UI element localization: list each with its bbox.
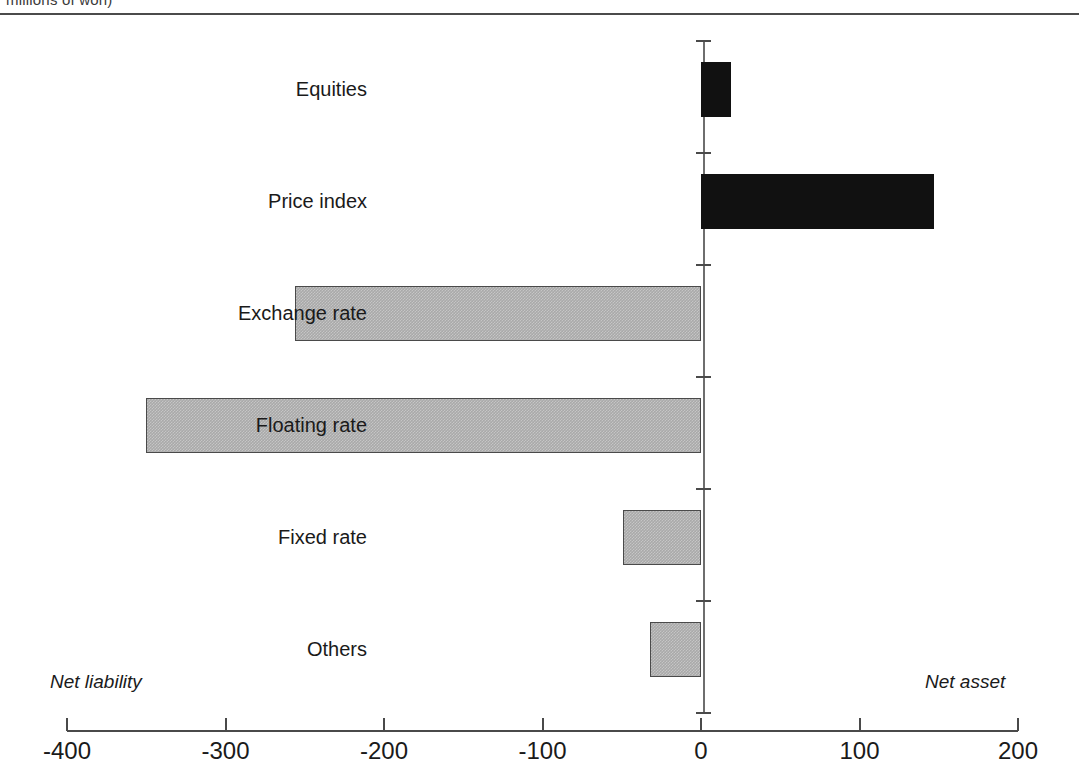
header-divider [0,13,1079,15]
axis-tick [696,488,711,490]
caption-text: millions of won) [6,0,113,8]
bar-others [650,622,701,677]
axis-tick [696,376,711,378]
axis-tick [696,152,711,154]
axis-tick [696,600,711,602]
category-label-others: Others [307,639,367,659]
category-label-fixed-rate: Fixed rate [278,527,367,547]
x-axis-tick-label: -300 [201,738,249,764]
axis-tick [696,40,711,42]
x-axis-tick-label: -200 [360,738,408,764]
axis-tick [696,264,711,266]
x-axis-tick [1017,718,1019,731]
x-axis-tick [383,718,385,731]
category-label-exchange-rate: Exchange rate [238,303,367,323]
x-axis-tick-label: -400 [43,738,91,764]
net-liability-annotation: Net liability [50,671,142,693]
bar-equities [701,62,731,117]
category-label-floating-rate: Floating rate [256,415,367,435]
category-label-price-index: Price index [268,191,367,211]
x-axis-tick-label: 0 [694,738,707,764]
bar-chart: EquitiesPrice indexExchange rateFloating… [0,16,1079,778]
x-axis-tick [700,718,702,731]
caption-strip: millions of won) [0,0,1079,14]
net-asset-annotation: Net asset [925,671,1005,693]
x-axis-tick [66,718,68,731]
x-axis-tick-label: -100 [518,738,566,764]
category-label-equities: Equities [296,79,367,99]
bar-price-index [701,174,934,229]
x-axis-tick [542,718,544,731]
x-axis-tick [225,718,227,731]
x-axis-tick-label: 100 [839,738,879,764]
x-axis-tick [859,718,861,731]
x-axis-tick-label: 200 [998,738,1038,764]
bar-fixed-rate [623,510,701,565]
axis-tick [696,712,711,714]
plot-area: EquitiesPrice indexExchange rateFloating… [0,16,1079,716]
bar-floating-rate [146,398,701,453]
